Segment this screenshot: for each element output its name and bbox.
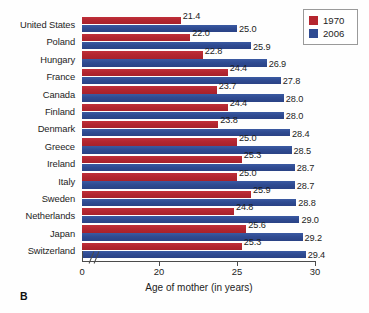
category-label: United States [0,16,79,33]
bar-2006 [82,112,284,119]
chart-row: 23.828.4 [82,120,315,137]
x-axis-tick-label: 20 [154,266,164,277]
legend-swatch-icon [309,16,318,25]
category-label: Switzerland [0,242,79,259]
x-axis-title: Age of mother (in years) [82,282,316,293]
bar-value-label: 25.3 [244,237,261,247]
chart-row: 24.427.8 [82,68,315,85]
bar-1970 [82,69,228,76]
chart-row: 25.629.2 [82,225,315,242]
chart-row: 25.028.7 [82,173,315,190]
chart-row: 23.728.0 [82,86,315,103]
legend-label: 2006 [323,28,344,39]
axis-break-icon [88,251,102,264]
category-label: Ireland [0,155,79,172]
chart-row: 24.428.0 [82,103,315,120]
bar-value-label: 25.3 [244,150,261,160]
plot-area: 21.425.022.025.922.826.924.427.823.728.0… [82,16,315,261]
bar-1970 [82,191,251,198]
x-axis-line [82,261,316,262]
chart-row: 24.829.0 [82,207,315,224]
bar-1970 [82,156,242,163]
chart-row: 25.329.4 [82,242,315,259]
category-label: Japan [0,225,79,242]
panel-label: B [20,290,28,302]
bar-2006 [82,164,295,171]
bar-1970 [82,104,228,111]
bar-value-label: 23.8 [220,115,237,125]
bar-1970 [82,51,203,58]
bar-1970 [82,173,237,180]
category-label: Greece [0,138,79,155]
bar-2006 [82,233,303,240]
bar-2006 [82,199,296,206]
category-label: Hungary [0,51,79,68]
bar-1970 [82,34,190,41]
bar-value-label: 24.8 [236,202,253,212]
bar-value-label: 22.8 [205,46,222,56]
category-label: Canada [0,86,79,103]
bar-2006 [82,77,281,84]
bar-value-label: 25.6 [248,220,265,230]
chart-row: 25.328.7 [82,155,315,172]
bar-value-label: 23.7 [219,81,236,91]
bar-1970 [82,225,246,232]
bar-value-label: 22.0 [192,28,209,38]
bar-2006 [82,251,306,258]
bar-1970 [82,17,181,24]
legend-label: 1970 [323,15,344,26]
category-label: Poland [0,33,79,50]
legend-item-1970: 1970 [309,14,352,27]
bar-value-label: 21.4 [183,11,200,21]
x-axis-tick-label: 0 [79,266,84,277]
bar-2006 [82,216,299,223]
bar-1970 [82,243,242,250]
x-axis-tick-label: 30 [310,266,320,277]
legend-swatch-icon [309,29,318,38]
category-label: Italy [0,173,79,190]
category-label: France [0,68,79,85]
chart-row: 22.025.9 [82,33,315,50]
bar-1970 [82,208,234,215]
bar-value-label: 24.4 [230,98,247,108]
chart-row: 25.928.8 [82,190,315,207]
chart-legend: 1970 2006 [303,9,358,45]
bar-value-label: 25.0 [239,133,256,143]
bar-value-label: 24.4 [230,63,247,73]
category-label: Denmark [0,120,79,137]
category-label: Netherlands [0,207,79,224]
chart-row: 22.826.9 [82,51,315,68]
category-label: Sweden [0,190,79,207]
legend-item-2006: 2006 [309,27,352,40]
bar-2006 [82,129,290,136]
x-axis-tick-label: 25 [232,266,242,277]
bar-value-label: 25.9 [253,185,270,195]
bar-1970 [82,86,217,93]
bar-2006 [82,94,284,101]
bar-2006 [82,42,251,49]
bar-chart: United StatesPolandHungaryFranceCanadaFi… [0,0,369,313]
bar-value-label: 29.4 [308,250,325,260]
bar-1970 [82,138,237,145]
category-axis-labels: United StatesPolandHungaryFranceCanadaFi… [0,16,79,259]
bar-2006 [82,25,237,32]
bar-value-label: 25.0 [239,168,256,178]
category-label: Finland [0,103,79,120]
bar-1970 [82,121,218,128]
chart-row: 25.028.5 [82,138,315,155]
